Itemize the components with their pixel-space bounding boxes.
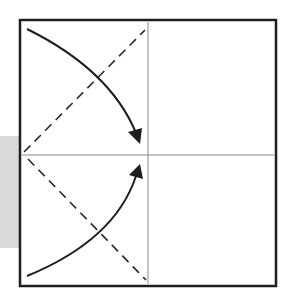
origami-diagram [0, 0, 291, 295]
paper-shadow-shape [0, 136, 19, 248]
